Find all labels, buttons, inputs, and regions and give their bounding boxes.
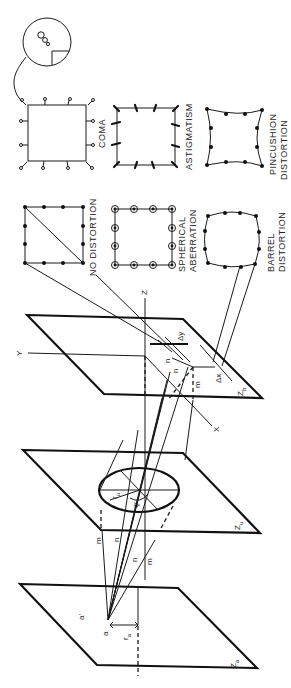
- point-a-prime-label: a': [77, 614, 86, 620]
- ra-label: ra: [121, 633, 132, 640]
- delta-x-label: Δx: [214, 374, 223, 383]
- ray-m-label-3: m: [145, 558, 154, 565]
- label-astigmatism: ASTIGMATISM: [184, 103, 194, 170]
- ray-m-label-2: m: [94, 537, 103, 544]
- barrel-distortion-pattern: BARREL DISTORTION: [203, 211, 287, 272]
- point-a-label: a: [101, 631, 110, 636]
- pincushion-pattern: PINCUSHION DISTORTION: [205, 107, 289, 180]
- delta-y-label: Δy: [176, 332, 185, 341]
- spherical-aberration-pattern: SPHERICAL ABERRATION: [112, 206, 199, 273]
- plane-zb-label: Zb: [236, 387, 247, 396]
- image-plane: Z Y X Δy Δx Zb n n m: [15, 290, 262, 580]
- label-pincushion-2: DISTORTION: [279, 120, 289, 180]
- label-barrel-2: DISTORTION: [277, 212, 287, 272]
- label-pincushion-1: PINCUSHION: [268, 113, 278, 175]
- label-coma: COMA: [97, 119, 107, 148]
- label-spherical-1: SPHERICAL: [177, 216, 187, 272]
- coma-magnifier: [14, 18, 71, 102]
- ray-m-label-1: m: [193, 381, 202, 388]
- lens-r-label: ru: [110, 493, 121, 499]
- axis-x-label: X: [212, 426, 221, 432]
- astigmatism-pattern: ASTIGMATISM: [112, 103, 194, 170]
- axis-z-label: Z: [140, 290, 149, 295]
- aberration-diagram: COMA ASTIGMATISM PINCUSHION DISTORTION: [0, 0, 291, 688]
- label-barrel-1: BARREL: [266, 233, 276, 272]
- label-spherical-2: ABERRATION: [188, 209, 198, 272]
- leader-lines: [25, 263, 255, 366]
- ray-n-label-1: n: [163, 359, 172, 363]
- object-plane: a a' ra Za n m: [20, 558, 257, 676]
- plane-zu-label: Zu: [233, 522, 244, 530]
- label-no-distortion: NO DISTORTION: [88, 198, 98, 276]
- axis-y-label: Y: [15, 350, 24, 356]
- no-distortion-pattern: NO DISTORTION: [23, 198, 98, 276]
- lens-plane: ru ψ Zu m n: [23, 450, 260, 544]
- ray-n-label-3: n: [112, 538, 121, 542]
- ray-n-label-4: n: [130, 558, 139, 562]
- ray-n-label-2: n: [171, 369, 180, 373]
- coma-pattern: COMA: [20, 98, 108, 170]
